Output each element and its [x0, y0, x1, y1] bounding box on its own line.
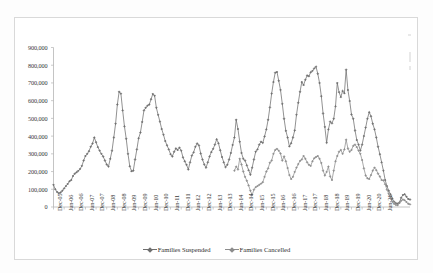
- x-axis-tick-label: Jun-12: [194, 194, 201, 210]
- y-axis-tick-label: 200,000: [14, 168, 48, 175]
- x-axis-tick-label: Dec-14: [247, 193, 254, 211]
- x-axis-tick-label: Jun-11: [173, 194, 180, 210]
- y-axis-tick-label: 100,000: [14, 186, 48, 193]
- y-axis-tick-label: 0: [14, 203, 48, 210]
- x-axis-tick-label: Jun-16: [279, 194, 286, 210]
- x-axis-tick-label: Jun-21: [386, 194, 393, 210]
- y-axis-tick-label: 600,000: [14, 97, 48, 104]
- x-axis-tick-label: Dec-13: [226, 193, 233, 211]
- x-axis-tick-label: Jun-07: [88, 194, 95, 210]
- x-axis-tick-label: Dec-18: [333, 193, 340, 211]
- x-axis-tick-label: Dec-12: [205, 193, 212, 211]
- chart-figure: 0100,000200,000300,000400,000500,000600,…: [0, 0, 433, 273]
- x-axis-tick-label: Dec-07: [98, 193, 105, 211]
- y-axis-tick-label: 300,000: [14, 150, 48, 157]
- series-layer: [53, 66, 411, 206]
- x-axis-tick-label: Jun-17: [301, 194, 308, 210]
- legend-item-families-suspended[interactable]: Families Suspended: [143, 245, 211, 253]
- chart-legend: Families SuspendedFamilies Cancelled: [0, 245, 433, 253]
- x-axis-tick-label: Jun-09: [130, 194, 137, 210]
- x-axis-tick-label: Jun-06: [67, 194, 74, 210]
- x-axis-tick-label: Dec-17: [311, 193, 318, 211]
- y-axis-tick-label: 900,000: [14, 44, 48, 51]
- x-axis-tick-label: Dec-06: [77, 193, 84, 211]
- legend-marker-icon: [225, 247, 239, 253]
- x-axis-tick-label: Jun-15: [258, 194, 265, 210]
- legend-item-families-cancelled[interactable]: Families Cancelled: [225, 245, 291, 253]
- x-axis-tick-label: Dec-16: [290, 193, 297, 211]
- legend-marker-icon: [143, 247, 157, 253]
- x-axis-tick-label: Jun-19: [343, 194, 350, 210]
- legend-label: Families Suspended: [158, 246, 211, 253]
- x-axis-tick-label: Dec-11: [184, 193, 191, 210]
- axis-layer: [51, 48, 410, 210]
- y-axis-tick-label: 800,000: [14, 62, 48, 69]
- y-axis-tick-label: 400,000: [14, 133, 48, 140]
- x-axis-tick-label: Dec-15: [269, 193, 276, 211]
- x-axis-tick-label: Dec-09: [141, 193, 148, 211]
- x-axis-tick-label: Jun-13: [216, 194, 223, 210]
- x-axis-tick-label: Dec-10: [162, 193, 169, 211]
- x-axis-tick-label: Dec-05: [56, 193, 63, 211]
- x-axis-tick-label: Dec-08: [120, 193, 127, 211]
- plot-canvas: [0, 0, 433, 273]
- y-axis-tick-label: 500,000: [14, 115, 48, 122]
- legend-label: Families Cancelled: [240, 246, 291, 253]
- x-axis-tick-label: Jun-18: [322, 194, 329, 210]
- x-axis-tick-label: Jun-08: [109, 194, 116, 210]
- x-axis-tick-label: Dec-19: [354, 193, 361, 211]
- y-axis-tick-label: 700,000: [14, 79, 48, 86]
- x-axis-tick-label: Dec-20: [375, 193, 382, 211]
- x-axis-tick-label: Jun-10: [152, 194, 159, 210]
- x-axis-tick-label: Jun-14: [237, 194, 244, 210]
- series-families-suspended: [53, 66, 411, 205]
- x-axis-tick-label: Jun-20: [365, 194, 372, 210]
